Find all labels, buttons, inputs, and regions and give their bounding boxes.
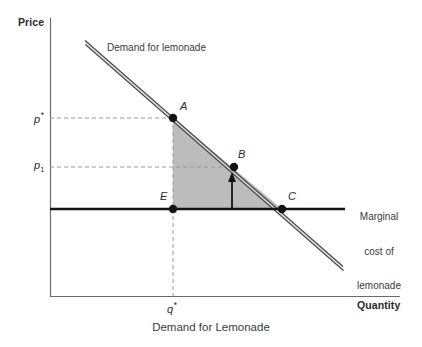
x-tick-q-star: q* [167, 300, 177, 315]
marginal-cost-label: Marginal cost of lemonade [348, 188, 410, 315]
x-tick-q-star-sup: * [173, 300, 177, 310]
demand-curve [85, 41, 344, 271]
point-a-dot [169, 114, 177, 122]
figure-container: Price Quantity Demand for lemonade Margi… [0, 0, 422, 347]
y-tick-p-star-sup: * [40, 110, 44, 120]
y-tick-p1: p1 [34, 159, 44, 174]
demand-curve-label: Demand for lemonade [107, 42, 206, 53]
marginal-cost-label-line3: lemonade [348, 280, 410, 292]
point-e-dot [169, 205, 177, 213]
marginal-cost-label-line1: Marginal [348, 211, 410, 223]
point-c-dot [278, 205, 286, 213]
marginal-cost-label-line2: cost of [348, 246, 410, 258]
figure-caption: Demand for Lemonade [0, 321, 422, 333]
point-b-dot [230, 163, 238, 171]
y-tick-p1-sub: 1 [40, 165, 44, 174]
point-c-label: C [288, 190, 296, 202]
y-tick-p-star: p* [34, 110, 44, 125]
y-axis-label: Price [18, 16, 44, 28]
point-a-label: A [180, 100, 187, 112]
point-b-label: B [238, 148, 245, 160]
point-e-label: E [160, 190, 167, 202]
